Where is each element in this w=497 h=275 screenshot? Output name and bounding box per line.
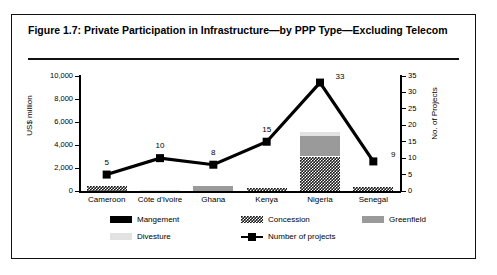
legend-item-mangement: Mangement bbox=[110, 215, 179, 224]
line-marker bbox=[369, 157, 377, 165]
legend-item-concession: Concession bbox=[241, 215, 310, 224]
line-point-label: 33 bbox=[327, 72, 353, 81]
line-marker bbox=[316, 79, 324, 87]
figure-frame: Figure 1.7: Private Participation in Inf… bbox=[11, 14, 476, 259]
gray-swatch bbox=[362, 216, 384, 223]
line-point-label: 5 bbox=[94, 158, 120, 167]
x-axis-category-label: Côte d'Ivoire bbox=[133, 195, 186, 204]
legend-label-divesture: Divesture bbox=[137, 232, 171, 241]
line-marker bbox=[263, 138, 271, 146]
legend-item-greenfield: Greenfield bbox=[362, 215, 426, 224]
x-axis-category-label: Kenya bbox=[240, 195, 293, 204]
line-point-label: 8 bbox=[200, 148, 226, 157]
line-point-label: 10 bbox=[147, 141, 173, 150]
line-point-label: 9 bbox=[380, 150, 406, 159]
checker-swatch bbox=[241, 216, 263, 223]
line-marker bbox=[103, 171, 111, 179]
solid-black-swatch bbox=[110, 216, 132, 223]
line-point-label: 15 bbox=[254, 125, 280, 134]
x-axis-category-label: Senegal bbox=[347, 195, 400, 204]
x-axis-category-label: Cameroon bbox=[80, 195, 133, 204]
line-marker bbox=[156, 154, 164, 162]
legend-item-divesture: Divesture bbox=[110, 232, 171, 241]
x-axis-category-label: Ghana bbox=[187, 195, 240, 204]
x-axis-category-label: Nigeria bbox=[293, 195, 346, 204]
legend-item-number-of-projects: Number of projects bbox=[241, 232, 336, 241]
legend-label-concession: Concession bbox=[268, 215, 310, 224]
line-marker bbox=[209, 161, 217, 169]
line-marker-swatch bbox=[241, 232, 263, 241]
legend-label-greenfield: Greenfield bbox=[389, 215, 426, 224]
light-gray-swatch bbox=[110, 233, 132, 240]
legend-label-number-of-projects: Number of projects bbox=[268, 232, 336, 241]
chart-legend: Mangement Concession Greenfield Divestur… bbox=[28, 215, 460, 253]
legend-label-mangement: Mangement bbox=[137, 215, 179, 224]
